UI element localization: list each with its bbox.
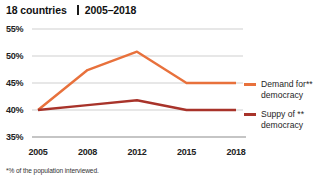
legend-label-supply: Suppy of **democracy — [261, 109, 304, 130]
chart-figure: 18 countries 2005–2018 35%40%45%50%55% 2… — [0, 0, 319, 181]
legend-label-line2: democracy — [261, 120, 304, 131]
legend-label-demand: Demand for**democracy — [261, 79, 313, 100]
legend-label-line1: Suppy of ** — [261, 109, 304, 120]
x-tick-label: 2005 — [28, 147, 47, 157]
legend-label-line1: Demand for** — [261, 79, 313, 90]
series-line-supply — [38, 100, 236, 110]
x-tick-label: 2018 — [226, 147, 245, 157]
legend-swatch-demand — [244, 83, 256, 86]
legend-label-line2: democracy — [261, 90, 313, 101]
x-tick-label: 2008 — [78, 147, 97, 157]
y-tick-label: 55% — [6, 24, 23, 34]
legend-item-demand: Demand for**democracy — [244, 79, 313, 100]
x-tick-label: 2015 — [177, 147, 196, 157]
series-lines — [38, 52, 236, 110]
x-tick-label: 2012 — [127, 147, 146, 157]
y-tick-label: 50% — [6, 51, 23, 61]
y-tick-label: 40% — [6, 105, 23, 115]
legend-item-supply: Suppy of **democracy — [244, 109, 304, 130]
chart-footnote: *% of the population interviewed. — [6, 167, 99, 174]
legend-swatch-supply — [244, 113, 256, 116]
y-tick-label: 45% — [6, 78, 23, 88]
y-tick-label: 35% — [6, 132, 23, 142]
